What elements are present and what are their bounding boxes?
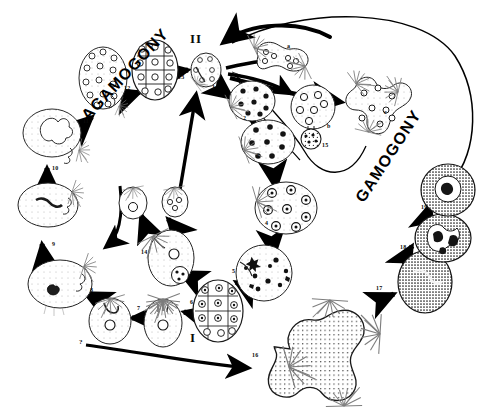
stage-number-2: 2 [243, 115, 246, 121]
stage-number-11: 11 [83, 118, 89, 124]
bottom-long-arrow [86, 345, 248, 368]
cell-stage-3 [239, 120, 295, 164]
stage-number-5: 5 [232, 268, 235, 274]
stage-number-4: 4 [265, 220, 268, 226]
cell-stage-8 [89, 295, 131, 344]
alpha-label-b: b [327, 123, 330, 129]
cell-stage-5 [236, 245, 292, 301]
cell-stage-2 [225, 81, 275, 121]
cell-figures [18, 29, 475, 410]
stage-number-18: 18 [400, 244, 406, 250]
diagram-canvas [0, 0, 482, 415]
cell-stage-9 [28, 253, 103, 316]
life-cycle-diagram: AGAMOGONY GAMOGONY II I 1 2 3 4 5 6 7 8 … [0, 0, 482, 415]
alpha-label-c: c [384, 109, 387, 115]
stage-number-6: 6 [190, 299, 193, 305]
cell-small-upper-left [119, 186, 147, 219]
cell-stage-9b [18, 180, 90, 227]
cell-stage-14 [136, 228, 194, 286]
stage-number-13: 13 [178, 74, 184, 80]
stage-number-17: 17 [376, 285, 382, 291]
cell-small-upper-right [162, 186, 188, 217]
cell-stage-16 [268, 295, 385, 410]
arrow-17 [381, 294, 394, 300]
stage-number-7: 7 [137, 305, 140, 311]
stage-number-19: 19 [421, 204, 427, 210]
cell-stage-1 [191, 53, 221, 92]
arrow-14-right [168, 219, 176, 228]
stage-number-8: 8 [90, 287, 93, 293]
roman-numeral-one: I [190, 330, 196, 346]
arrow-14-up [141, 215, 146, 228]
cell-stage-7 [141, 292, 186, 347]
roman-numeral-two: II [190, 31, 202, 47]
cell-stage-6 [193, 280, 243, 342]
stage-number-12: 12 [124, 85, 130, 91]
hook-arrow-left [106, 186, 121, 247]
arrow-12 [123, 92, 140, 98]
stage-number-10: 10 [52, 165, 58, 171]
cell-label-a [248, 29, 312, 85]
stage-number-1: 1 [212, 84, 215, 90]
alpha-label-a: a [287, 43, 290, 49]
stage-number-9: 9 [52, 241, 55, 247]
stage-number-16: 16 [252, 352, 258, 358]
cell-stage-19 [421, 164, 475, 216]
stage-number-15: 15 [322, 142, 328, 148]
cell-stage-4 [252, 182, 317, 234]
query-mark-left: ? [79, 338, 83, 346]
arrow-9 [42, 244, 44, 258]
cell-label-b [291, 85, 335, 149]
stage-number-14: 14 [141, 249, 147, 255]
stage-number-3: 3 [256, 153, 259, 159]
cell-stage-18 [415, 214, 471, 262]
